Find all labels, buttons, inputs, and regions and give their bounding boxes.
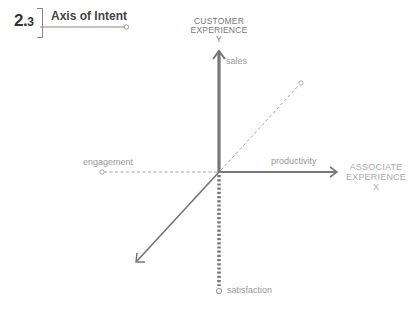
- y-axis-positive: [213, 51, 225, 172]
- z-axis-negative: [136, 172, 219, 262]
- label-satisfaction: satisfaction: [227, 285, 272, 295]
- x-axis-negative: [100, 170, 217, 174]
- x-axis-title-line1: ASSOCIATE: [342, 162, 410, 172]
- axis-diagram: [0, 0, 417, 313]
- x-axis-title: ASSOCIATE EXPERIENCE X: [342, 162, 410, 192]
- y-axis-letter: Y: [186, 35, 252, 44]
- x-axis-letter: X: [342, 182, 410, 192]
- y-axis-negative: [216, 175, 221, 294]
- label-engagement: engagement: [83, 157, 133, 167]
- x-axis-positive: [219, 167, 337, 177]
- y-axis-title: CUSTOMER EXPERIENCE Y: [186, 17, 252, 44]
- label-sales: sales: [226, 56, 247, 66]
- x-axis-title-line2: EXPERIENCE: [342, 172, 410, 182]
- label-productivity: productivity: [271, 156, 317, 166]
